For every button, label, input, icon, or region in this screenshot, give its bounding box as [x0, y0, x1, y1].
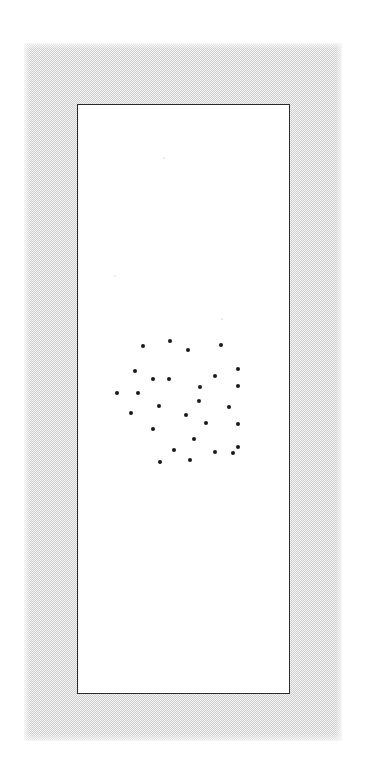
scatter-point: [136, 391, 140, 395]
scatter-point: [213, 374, 217, 378]
scatter-point: [219, 343, 223, 347]
scatter-point: [168, 339, 172, 343]
scatter-point: [236, 384, 240, 388]
scatter-point: [198, 385, 202, 389]
scatter-point: [213, 450, 217, 454]
scatter-point: [188, 458, 192, 462]
scatter-point: [186, 348, 190, 352]
scatter-point: [157, 404, 161, 408]
scatter-point: [115, 391, 119, 395]
scatter-point: [167, 377, 171, 381]
scatter-point: [227, 405, 231, 409]
scan-speck: [114, 275, 116, 277]
scatter-point: [141, 344, 145, 348]
scatter-point: [236, 445, 240, 449]
scatter-point: [151, 427, 155, 431]
scatter-point: [236, 422, 240, 426]
scatter-point: [158, 460, 162, 464]
figure-frame: [77, 104, 290, 694]
scatter-point: [204, 421, 208, 425]
scatter-point: [151, 377, 155, 381]
scan-speck: [221, 318, 223, 320]
scanned-page: [0, 0, 366, 782]
scatter-point: [172, 448, 176, 452]
scatter-point: [184, 413, 188, 417]
scatter-point: [133, 369, 137, 373]
scatter-point: [236, 367, 240, 371]
scatter-point: [197, 399, 201, 403]
scatter-point: [192, 437, 196, 441]
scan-speck: [163, 157, 165, 159]
scatter-point: [129, 411, 133, 415]
scatter-point: [231, 451, 235, 455]
scatter-plot-surface: [78, 105, 289, 693]
